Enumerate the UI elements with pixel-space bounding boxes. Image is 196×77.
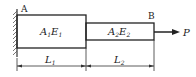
point-a-label: A — [20, 4, 28, 14]
point-b-label: B — [148, 11, 155, 21]
length1-label: L1 — [44, 54, 55, 66]
length2-label: L2 — [113, 54, 125, 66]
stepped-bar-diagram: A B P A1E1 A2E2 L1 L2 — [0, 0, 196, 77]
segment1-label: A1E1 — [39, 26, 62, 38]
force-label: P — [182, 27, 190, 38]
force-arrow-icon — [154, 29, 180, 35]
segment2-label: A2E2 — [107, 26, 130, 38]
